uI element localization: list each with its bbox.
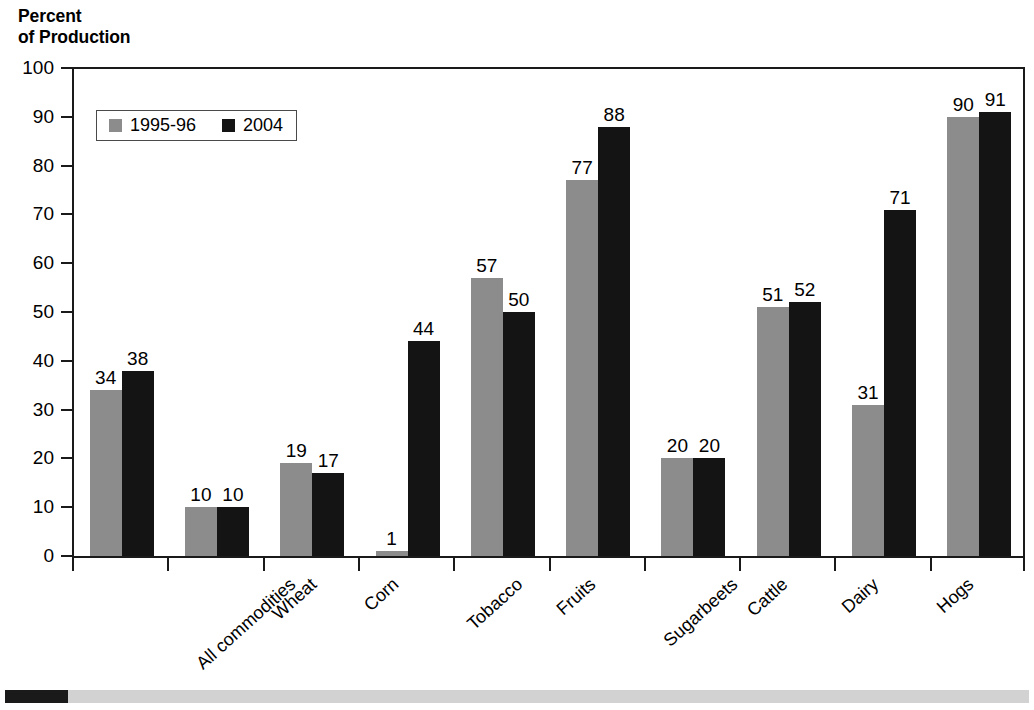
bar-value-label: 10 xyxy=(190,485,211,505)
x-axis-tick-mark xyxy=(358,558,360,571)
bar-chart: Percent of Production 100908070605040302… xyxy=(0,0,1034,710)
bar: 34 xyxy=(90,390,122,556)
bar-value-label: 19 xyxy=(286,441,307,461)
y-axis-tick-label: 80 xyxy=(33,155,54,176)
bar-value-label: 51 xyxy=(762,285,783,305)
bar-value-label: 77 xyxy=(572,158,593,178)
legend-swatch-icon xyxy=(222,119,235,132)
chart-legend: 1995-96 2004 xyxy=(96,110,297,141)
bar-value-label: 20 xyxy=(699,436,720,456)
y-axis-tick-mark xyxy=(61,311,72,313)
x-axis-tick-mark xyxy=(930,558,932,571)
bar: 20 xyxy=(693,458,725,556)
bar: 10 xyxy=(217,507,249,556)
bar-value-label: 31 xyxy=(857,383,878,403)
legend-swatch-icon xyxy=(109,119,122,132)
y-axis-tick-mark xyxy=(61,213,72,215)
y-axis-tick-mark xyxy=(61,409,72,411)
x-axis-tick-label: Dairy xyxy=(838,574,883,617)
y-axis-tick-label: 0 xyxy=(43,545,54,566)
bar: 57 xyxy=(471,278,503,556)
bar-value-label: 52 xyxy=(794,280,815,300)
legend-label: 1995-96 xyxy=(130,116,196,135)
bar: 1 xyxy=(376,551,408,556)
y-axis-tick-label: 10 xyxy=(33,496,54,517)
x-axis-tick-label: Hogs xyxy=(933,574,978,617)
bar: 77 xyxy=(566,180,598,556)
x-axis-tick-mark xyxy=(644,558,646,571)
y-axis-tick-mark xyxy=(61,360,72,362)
bar-value-label: 71 xyxy=(889,188,910,208)
bar-group: 1010 xyxy=(185,68,249,556)
y-axis-tick-mark xyxy=(61,555,72,557)
y-axis-tick-label: 30 xyxy=(33,399,54,420)
bar-value-label: 50 xyxy=(508,290,529,310)
bar: 90 xyxy=(947,117,979,556)
bar-group: 3171 xyxy=(852,68,916,556)
bar-value-label: 90 xyxy=(953,95,974,115)
bar: 50 xyxy=(503,312,535,556)
bar-value-label: 10 xyxy=(222,485,243,505)
bar-value-label: 91 xyxy=(985,90,1006,110)
x-axis-tick-mark xyxy=(739,558,741,571)
y-axis-tick-mark xyxy=(61,506,72,508)
page-title: Percent of Production xyxy=(18,6,130,48)
x-axis-tick-mark xyxy=(263,558,265,571)
bar-value-label: 34 xyxy=(95,368,116,388)
x-axis-tick-label: Corn xyxy=(360,574,402,615)
bar-value-label: 44 xyxy=(413,319,434,339)
bar: 44 xyxy=(408,341,440,556)
bar: 20 xyxy=(661,458,693,556)
x-axis-tick-mark xyxy=(453,558,455,571)
bar-group: 2020 xyxy=(661,68,725,556)
y-axis-tick-label: 50 xyxy=(33,301,54,322)
y-axis-tick-label: 90 xyxy=(33,106,54,127)
bar: 19 xyxy=(280,463,312,556)
bar: 31 xyxy=(852,405,884,556)
bar-value-label: 38 xyxy=(127,349,148,369)
legend-item-0: 1995-96 xyxy=(109,116,196,135)
y-axis-tick-mark xyxy=(61,457,72,459)
y-axis-tick-label: 40 xyxy=(33,350,54,371)
bar-value-label: 57 xyxy=(476,256,497,276)
y-axis-tick-label: 100 xyxy=(22,57,54,78)
bar-value-label: 17 xyxy=(318,451,339,471)
x-axis-tick-mark xyxy=(549,558,551,571)
bar-group: 9091 xyxy=(947,68,1011,556)
y-axis-tick-mark xyxy=(61,262,72,264)
y-axis-tick-mark xyxy=(61,116,72,118)
bar: 71 xyxy=(884,210,916,556)
bar: 10 xyxy=(185,507,217,556)
y-axis-tick-label: 70 xyxy=(33,203,54,224)
bar: 38 xyxy=(122,371,154,556)
footer-rule xyxy=(5,690,1029,703)
bar-group: 3438 xyxy=(90,68,154,556)
x-axis-tick-mark xyxy=(167,558,169,571)
bar-group: 5152 xyxy=(757,68,821,556)
bar-value-label: 1 xyxy=(386,529,397,549)
x-axis-tick-label: Tobacco xyxy=(463,574,526,634)
x-axis-tick-label: Cattle xyxy=(744,574,792,620)
y-axis-tick-label: 20 xyxy=(33,447,54,468)
legend-item-1: 2004 xyxy=(222,116,283,135)
x-axis-tick-mark xyxy=(834,558,836,571)
x-axis-tick-label: Fruits xyxy=(552,574,599,619)
x-axis-tick-mark xyxy=(72,558,74,571)
bar-group: 144 xyxy=(376,68,440,556)
y-axis-tick-mark xyxy=(61,165,72,167)
legend-label: 2004 xyxy=(243,116,283,135)
bar-group: 7788 xyxy=(566,68,630,556)
bar-group: 5750 xyxy=(471,68,535,556)
y-axis-tick-mark xyxy=(61,67,72,69)
x-axis-tick-mark xyxy=(1023,558,1025,571)
bar: 52 xyxy=(789,302,821,556)
bar: 17 xyxy=(312,473,344,556)
x-axis-tick-label: Sugarbeets xyxy=(660,574,742,650)
bar-value-label: 88 xyxy=(604,105,625,125)
bar: 51 xyxy=(757,307,789,556)
bar-value-label: 20 xyxy=(667,436,688,456)
bar: 91 xyxy=(979,112,1011,556)
footer-rule-accent xyxy=(5,690,68,703)
bar-group: 1917 xyxy=(280,68,344,556)
x-axis-tick-label: All commodities xyxy=(192,574,299,673)
